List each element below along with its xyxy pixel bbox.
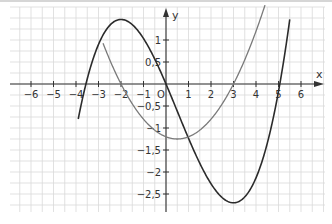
series-parabola-line	[103, 5, 265, 139]
x-tick-label: −1	[136, 89, 151, 100]
x-tick-label: −5	[46, 89, 61, 100]
x-axis-label: x	[316, 68, 323, 81]
x-tick-label: 3	[230, 89, 236, 100]
y-tick-label: 1	[155, 35, 161, 46]
y-tick-label: −2,5	[137, 189, 161, 200]
x-tick-label: −3	[91, 89, 106, 100]
function-graph: −6−5−4−3−2−112345610,5−0,5−1−1,5−2−2,5 x…	[0, 0, 332, 224]
axes	[10, 8, 324, 212]
x-tick-label: 6	[298, 89, 304, 100]
y-tick-label: −2	[146, 167, 161, 178]
x-tick-label: 1	[185, 89, 191, 100]
x-tick-label: 2	[208, 89, 214, 100]
x-tick-label: −4	[69, 89, 84, 100]
grid	[10, 7, 325, 212]
y-axis-label: y	[172, 9, 179, 22]
x-tick-label: −6	[24, 89, 39, 100]
x-axis-arrow	[314, 81, 324, 87]
x-tick-label: 4	[253, 89, 259, 100]
origin-label: O	[157, 89, 165, 100]
y-tick-label: −1,5	[137, 145, 161, 156]
y-tick-label: −0,5	[137, 101, 161, 112]
y-axis-arrow	[163, 8, 169, 17]
